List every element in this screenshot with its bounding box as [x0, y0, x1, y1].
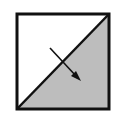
diagram-canvas	[0, 0, 119, 113]
